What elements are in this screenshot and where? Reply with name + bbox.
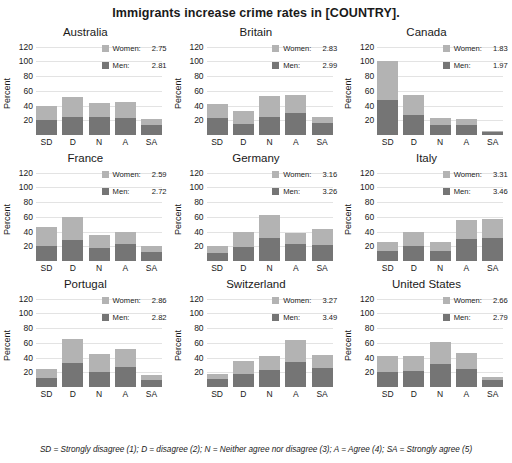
legend-item-women: Women:3.31: [443, 171, 508, 179]
bar-segment-women: [285, 340, 306, 362]
bar-segment-women: [36, 106, 57, 121]
legend: Women:1.83Men:1.97: [443, 45, 508, 78]
panel-title: Canada: [341, 26, 512, 38]
legend-item-women: Women:1.83: [443, 45, 508, 53]
legend-swatch-men-icon: [443, 314, 450, 321]
y-axis-tick: 20: [194, 368, 203, 377]
legend-swatch-women-icon: [102, 297, 109, 304]
bar-segment-men: [285, 244, 306, 261]
bar-segment-men: [456, 239, 477, 261]
bar-segment-men: [482, 132, 503, 135]
x-axis-tick: SD: [207, 389, 228, 399]
legend-swatch-men-icon: [443, 188, 450, 195]
y-axis-tick: 60: [194, 339, 203, 348]
legend-swatch-women-icon: [272, 297, 279, 304]
x-axis-tick: A: [115, 137, 136, 147]
bar-segment-women: [403, 356, 424, 371]
legend-swatch-men-icon: [272, 188, 279, 195]
x-axis-ticks: SDDNASA: [207, 263, 333, 273]
bar-a: [285, 340, 306, 387]
x-axis-tick: SD: [36, 263, 57, 273]
bar-segment-men: [141, 380, 162, 387]
bar-segment-men: [430, 251, 451, 261]
y-axis-tick: 60: [365, 213, 374, 222]
bar-segment-men: [312, 245, 333, 261]
page-title: Immigrants increase crime rates in [COUN…: [0, 6, 512, 20]
y-axis-tick: 100: [360, 183, 374, 192]
bar-sa: [141, 246, 162, 261]
y-axis-tick: 20: [24, 242, 33, 251]
bar-segment-men: [141, 125, 162, 135]
legend-label: Men:: [454, 188, 488, 196]
x-axis-ticks: SDDNASA: [36, 389, 162, 399]
legend-label: Men:: [113, 62, 147, 70]
legend: Women:2.66Men:2.79: [443, 297, 508, 330]
legend-label: Women:: [454, 171, 488, 179]
bar-segment-women: [89, 354, 110, 372]
y-axis-tick: 20: [194, 242, 203, 251]
legend: Women:2.83Men:2.99: [272, 45, 337, 78]
bar-n: [89, 103, 110, 135]
x-axis-ticks: SDDNASA: [36, 137, 162, 147]
bar-segment-men: [233, 374, 254, 387]
y-axis-tick: 40: [194, 227, 203, 236]
legend-item-women: Women:2.66: [443, 297, 508, 305]
y-axis-tick: 100: [360, 57, 374, 66]
bar-segment-women: [403, 95, 424, 115]
y-axis-tick: 80: [24, 198, 33, 207]
legend-label: Women:: [283, 45, 317, 53]
y-axis-tick: 80: [365, 324, 374, 333]
bar-n: [430, 342, 451, 387]
x-axis-tick: A: [456, 137, 477, 147]
panel-australia: AustraliaPercent12010080604020SDDNASAWom…: [0, 26, 171, 152]
y-axis-tick: 20: [24, 368, 33, 377]
legend-value: 2.75: [147, 45, 167, 53]
bar-d: [62, 339, 83, 387]
legend-item-women: Women:3.16: [272, 171, 337, 179]
bar-segment-men: [312, 123, 333, 135]
y-axis-tick: 120: [189, 168, 203, 177]
x-axis-tick: N: [89, 263, 110, 273]
x-axis-ticks: SDDNASA: [377, 389, 503, 399]
legend-label: Women:: [113, 171, 147, 179]
y-axis-tick: 20: [24, 116, 33, 125]
y-axis-label: Percent: [173, 204, 183, 235]
y-axis-tick: 20: [194, 116, 203, 125]
bar-segment-women: [377, 356, 398, 372]
y-axis-tick: 120: [360, 168, 374, 177]
bar-segment-women: [377, 242, 398, 252]
legend-value: 1.97: [488, 62, 508, 70]
legend-item-men: Men:2.99: [272, 62, 337, 70]
bar-segment-men: [456, 369, 477, 387]
y-axis-label: Percent: [343, 78, 353, 109]
legend-value: 2.59: [147, 171, 167, 179]
legend-label: Women:: [283, 297, 317, 305]
bar-segment-men: [233, 247, 254, 261]
bar-a: [285, 95, 306, 135]
bar-segment-men: [115, 367, 136, 387]
bar-segment-women: [207, 246, 228, 253]
legend-label: Men:: [454, 314, 488, 322]
x-axis-tick: N: [430, 263, 451, 273]
legend-label: Women:: [454, 45, 488, 53]
legend-item-women: Women:2.83: [272, 45, 337, 53]
y-axis-tick: 120: [360, 294, 374, 303]
legend: Women:3.16Men:3.26: [272, 171, 337, 204]
y-axis-tick: 20: [365, 116, 374, 125]
legend-item-men: Men:2.81: [102, 62, 167, 70]
bar-segment-women: [115, 349, 136, 367]
x-axis-tick: SD: [377, 389, 398, 399]
x-axis-tick: SD: [36, 137, 57, 147]
x-axis-tick: D: [403, 137, 424, 147]
y-axis-tick: 80: [365, 198, 374, 207]
bar-segment-women: [312, 229, 333, 245]
bar-d: [233, 232, 254, 261]
legend-value: 2.81: [147, 62, 167, 70]
x-axis-tick: N: [89, 389, 110, 399]
legend-swatch-women-icon: [443, 45, 450, 52]
legend-swatch-men-icon: [102, 188, 109, 195]
panel-title: Germany: [171, 152, 342, 164]
bar-n: [89, 235, 110, 261]
y-axis-tick: 100: [189, 183, 203, 192]
legend-item-women: Women:3.27: [272, 297, 337, 305]
